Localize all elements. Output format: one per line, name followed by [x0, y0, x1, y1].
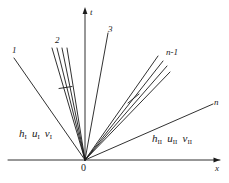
line-label-3: 3 [108, 25, 113, 34]
region-right-state-labels: hIIuIIvII [152, 133, 192, 146]
line-label-n: n [214, 98, 219, 107]
diagram-canvas [0, 0, 229, 183]
characteristic-line-2a [52, 48, 85, 160]
origin-label: 0 [81, 163, 86, 173]
characteristics-diagram: t x 0 1 2 3 n-1 n hIuIvI hIIuIIvII [0, 0, 229, 183]
characteristic-line-2d [67, 48, 85, 160]
region-right-u: uII [167, 132, 177, 144]
t-axis-label: t [90, 8, 93, 17]
region-left-v: vI [45, 127, 52, 139]
characteristic-line-3 [85, 33, 108, 160]
x-axis-label: x [215, 164, 219, 173]
x-axis-arrowhead [214, 158, 221, 163]
region-right-v: vII [183, 132, 193, 144]
characteristic-line-n1d [85, 72, 170, 160]
characteristic-line-n1c [85, 66, 167, 160]
characteristic-line-2b [57, 48, 85, 160]
line-label-n-minus-1: n-1 [166, 48, 178, 57]
t-axis-arrowhead [83, 7, 88, 14]
line-label-1: 1 [12, 46, 17, 55]
region-left-state-labels: hIuIvI [19, 128, 52, 141]
right-fan-tick [128, 94, 139, 103]
region-right-h: hII [152, 132, 162, 144]
region-left-h: hI [19, 127, 27, 139]
region-left-u: uI [32, 127, 40, 139]
line-label-2: 2 [55, 36, 60, 45]
